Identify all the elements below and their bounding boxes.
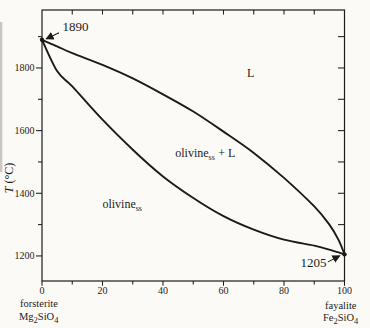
arrow-to-1890-point <box>47 33 60 39</box>
region-label-olivine-ss-plus-liquid: oliviness+ L <box>175 146 235 162</box>
point-annotations: 1890 1205 <box>40 19 347 270</box>
x-axis-tick-label-80: 80 <box>279 285 289 296</box>
x-axis-tick-label-100: 100 <box>337 285 352 296</box>
region-label-olivine-ss: oliviness <box>102 197 142 213</box>
y-axis-tick-label-1800: 1800 <box>15 62 35 73</box>
x-axis-tick-label-20: 20 <box>98 285 108 296</box>
y-axis-tick-label-1600: 1600 <box>15 125 35 136</box>
fayalite-melting-point-dot <box>342 252 346 256</box>
arrow-to-1205-point <box>328 256 340 262</box>
x-axis-tick-label-40: 40 <box>158 285 168 296</box>
forsterite-melting-point-dot <box>40 38 44 42</box>
x-axis-tick-label-0: 0 <box>40 285 45 296</box>
phase-diagram-canvas: 0204060801001200140016001800 1890 1205 L… <box>0 0 370 328</box>
annotation-1205: 1205 <box>301 255 327 270</box>
x-axis-tick-label-60: 60 <box>219 285 229 296</box>
x-axis-left-end-name: forsterite <box>20 298 58 309</box>
annotation-1890: 1890 <box>63 19 89 34</box>
x-axis-right-end-name: fayalite <box>325 300 357 311</box>
x-axis-left-end-formula: Mg2SiO4 <box>19 311 59 325</box>
scan-edge-shadow <box>0 22 2 172</box>
y-axis-tick-label-1400: 1400 <box>15 188 35 199</box>
y-axis-tick-label-1200: 1200 <box>15 250 35 261</box>
y-axis-title: T(°C) <box>2 163 16 193</box>
x-axis-right-end-formula: Fe2SiO4 <box>323 312 359 326</box>
phase-diagram-figure: 0204060801001200140016001800 1890 1205 L… <box>0 0 370 328</box>
region-label-liquid: L <box>247 66 254 80</box>
